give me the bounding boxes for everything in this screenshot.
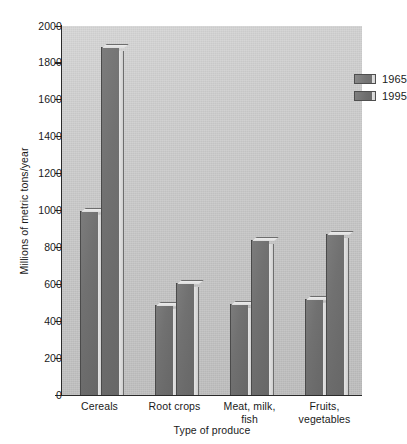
bar [80, 211, 98, 396]
bar [101, 47, 119, 395]
y-axis-ticks: 2000180016001400120010008006004002000 [0, 0, 62, 444]
bar [155, 305, 173, 395]
legend-item: 1965 [354, 72, 407, 86]
bar [176, 283, 194, 395]
bar [230, 304, 248, 395]
x-axis-category-label-line: Fruits, [277, 400, 372, 413]
y-axis-tick-label: 1800 [14, 57, 62, 68]
bar [305, 299, 323, 395]
legend-swatch-icon [354, 91, 376, 101]
legend-label: 1995 [382, 90, 407, 102]
y-axis-tick-label: 0 [14, 390, 62, 401]
legend-item: 1995 [354, 89, 407, 103]
bar [251, 240, 269, 395]
y-axis-tick-label: 2000 [14, 21, 62, 32]
bar [326, 234, 344, 395]
plot-area: 19651995 [62, 26, 362, 395]
y-axis-title: Millions of metric tons/year [18, 101, 30, 321]
legend-swatch-icon [354, 74, 376, 84]
x-axis-category-label: Fruits,vegetables [277, 400, 372, 425]
x-axis-title: Type of produce [62, 424, 362, 436]
y-axis-tick-label: 200 [14, 353, 62, 364]
x-axis-category-label-line: vegetables [277, 413, 372, 426]
x-axis-line [61, 395, 362, 396]
legend-label: 1965 [382, 73, 407, 85]
legend: 19651995 [354, 72, 407, 106]
